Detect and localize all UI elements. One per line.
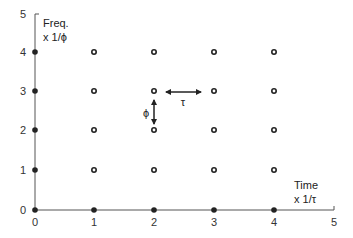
tau-label: τ [181,96,186,108]
point-0-1 [32,167,38,173]
y-tick-2: 2 [20,124,26,136]
phi-label: ϕ [143,107,149,119]
y-tick-5: 5 [20,8,26,20]
y-axis-unit: x 1/ϕ [43,31,67,43]
point-1-0 [91,207,97,213]
point-0-4 [32,49,38,55]
x-tick-4: 4 [271,216,277,228]
lattice-diagram: 0 1 2 3 4 5 0 1 2 3 4 5 Freq. x 1/ϕ Time… [0,0,353,238]
interior-points [92,50,276,172]
y-tick-3: 3 [20,85,26,97]
point-3-0 [211,207,217,213]
y-tick-labels: 0 1 2 3 4 5 [20,8,26,216]
x-tick-5: 5 [331,216,337,228]
x-tick-labels: 0 1 2 3 4 5 [32,216,337,228]
point-0-0 [32,207,38,213]
point-2-0 [151,207,157,213]
x-tick-0: 0 [32,216,38,228]
x-axis-unit: x 1/τ [294,193,317,205]
y-tick-0: 0 [20,204,26,216]
y-tick-4: 4 [20,46,26,58]
y-axis-title: Freq. [43,17,69,29]
y-tick-1: 1 [20,164,26,176]
point-4-0 [271,207,277,213]
x-tick-3: 3 [211,216,217,228]
x-tick-1: 1 [91,216,97,228]
point-0-3 [32,88,38,94]
point-0-2 [32,127,38,133]
x-tick-2: 2 [151,216,157,228]
x-axis-title: Time [294,179,318,191]
